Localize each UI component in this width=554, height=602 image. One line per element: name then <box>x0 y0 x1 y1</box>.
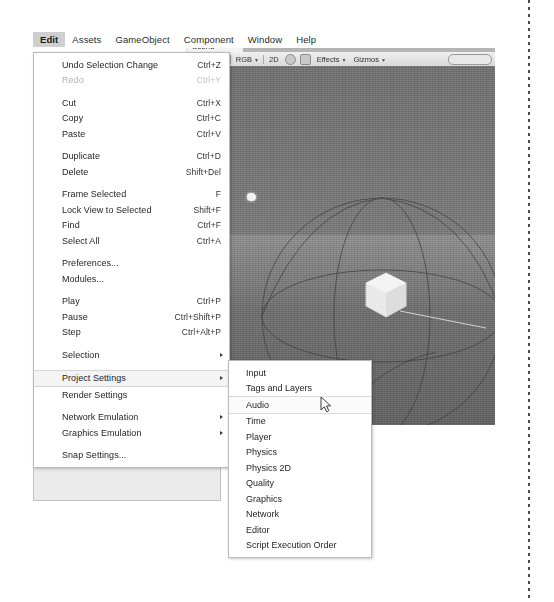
menu-bar[interactable]: Edit Assets GameObject Component Window … <box>33 31 528 48</box>
submenu-arrow-icon <box>220 376 223 380</box>
menu-item-find[interactable]: Find Ctrl+F <box>34 218 229 234</box>
menu-item-snap-settings[interactable]: Snap Settings... <box>34 448 229 464</box>
menu-item-modules[interactable]: Modules... <box>34 271 229 287</box>
menu-item-label: Render Settings <box>62 390 221 400</box>
menu-item-project-settings[interactable]: Project Settings <box>34 370 229 388</box>
menu-item-copy[interactable]: Copy Ctrl+C <box>34 111 229 127</box>
menu-item-graphics-emulation[interactable]: Graphics Emulation <box>34 425 229 441</box>
menu-item-pause[interactable]: Pause Ctrl+Shift+P <box>34 309 229 325</box>
menu-item-label: Selection <box>62 350 221 360</box>
menu-item-cut[interactable]: Cut Ctrl+X <box>34 95 229 111</box>
menu-item-label: Paste <box>62 129 187 139</box>
menu-item-label: Cut <box>62 98 187 108</box>
submenu-item-audio[interactable]: Audio <box>229 396 371 414</box>
submenu-arrow-icon <box>220 353 223 357</box>
menu-item-label: Step <box>62 327 172 337</box>
menu-item-label: Play <box>62 296 187 306</box>
submenu-item-input[interactable]: Input <box>229 365 371 381</box>
menu-separator <box>34 142 229 149</box>
menu-separator <box>34 403 229 410</box>
submenu-item-quality[interactable]: Quality <box>229 476 371 492</box>
menu-item-selection[interactable]: Selection <box>34 347 229 363</box>
menu-separator <box>34 287 229 294</box>
menu-item-shortcut: Ctrl+Y <box>187 75 221 85</box>
menu-item-label: Lock View to Selected <box>62 205 183 215</box>
menu-separator <box>34 88 229 95</box>
menubar-item-help[interactable]: Help <box>289 32 323 47</box>
edit-dropdown-menu[interactable]: Undo Selection Change Ctrl+Z Redo Ctrl+Y… <box>33 52 230 468</box>
submenu-item-physics-2d[interactable]: Physics 2D <box>229 460 371 476</box>
submenu-item-network[interactable]: Network <box>229 507 371 523</box>
menubar-item-assets[interactable]: Assets <box>65 32 108 47</box>
menu-item-shortcut: Ctrl+X <box>187 98 221 108</box>
menu-item-lock-view-to-selected[interactable]: Lock View to Selected Shift+F <box>34 202 229 218</box>
menu-item-shortcut: Shift+Del <box>176 167 221 177</box>
mouse-pointer-icon <box>320 396 333 413</box>
menu-item-paste[interactable]: Paste Ctrl+V <box>34 126 229 142</box>
menu-item-play[interactable]: Play Ctrl+P <box>34 294 229 310</box>
menu-separator <box>34 441 229 448</box>
menubar-item-gameobject[interactable]: GameObject <box>108 32 176 47</box>
menubar-item-component[interactable]: Component <box>177 32 241 47</box>
menu-item-shortcut: Shift+F <box>183 205 221 215</box>
menu-item-undo[interactable]: Undo Selection Change Ctrl+Z <box>34 57 229 73</box>
page-edge-dotted-rule <box>528 0 530 602</box>
submenu-item-tags-and-layers[interactable]: Tags and Layers <box>229 381 371 397</box>
submenu-item-player[interactable]: Player <box>229 429 371 445</box>
menu-item-label: Frame Selected <box>62 189 206 199</box>
menu-item-label: Find <box>62 220 187 230</box>
submenu-item-editor[interactable]: Editor <box>229 522 371 538</box>
menu-item-label: Project Settings <box>62 373 221 383</box>
menu-item-label: Modules... <box>62 274 211 284</box>
menu-item-label: Pause <box>62 312 165 322</box>
menu-item-shortcut: Ctrl+Shift+P <box>165 312 221 322</box>
menu-separator <box>34 249 229 256</box>
menu-item-label: Copy <box>62 113 186 123</box>
menu-item-shortcut: F <box>206 189 221 199</box>
menu-item-shortcut: Ctrl+F <box>187 220 221 230</box>
menu-separator <box>34 340 229 347</box>
menu-item-label: Snap Settings... <box>62 450 221 460</box>
submenu-item-graphics[interactable]: Graphics <box>229 491 371 507</box>
menu-item-shortcut: Ctrl+Alt+P <box>172 327 221 337</box>
menu-item-shortcut: Ctrl+V <box>187 129 221 139</box>
menubar-item-window[interactable]: Window <box>241 32 289 47</box>
menu-item-label: Preferences... <box>62 258 211 268</box>
submenu-item-script-execution-order[interactable]: Script Execution Order <box>229 538 371 554</box>
menu-item-label: Select All <box>62 236 187 246</box>
submenu-arrow-icon <box>220 431 223 435</box>
menu-item-shortcut: Ctrl+P <box>187 296 221 306</box>
menu-item-duplicate[interactable]: Duplicate Ctrl+D <box>34 149 229 165</box>
menu-item-delete[interactable]: Delete Shift+Del <box>34 164 229 180</box>
menu-item-shortcut: Ctrl+D <box>186 151 221 161</box>
menu-separator <box>34 363 229 370</box>
menu-item-label: Undo Selection Change <box>62 60 187 70</box>
menu-item-label: Delete <box>62 167 176 177</box>
submenu-item-physics[interactable]: Physics <box>229 445 371 461</box>
menu-item-render-settings[interactable]: Render Settings <box>34 387 229 403</box>
menu-item-label: Duplicate <box>62 151 186 161</box>
menu-item-shortcut: Ctrl+C <box>186 113 221 123</box>
submenu-item-time[interactable]: Time <box>229 414 371 430</box>
menu-item-preferences[interactable]: Preferences... <box>34 256 229 272</box>
menu-bar-items: Edit Assets GameObject Component Window … <box>33 31 528 48</box>
menu-item-frame-selected[interactable]: Frame Selected F <box>34 187 229 203</box>
menu-item-shortcut: Ctrl+A <box>187 236 221 246</box>
menu-item-label: Graphics Emulation <box>62 428 221 438</box>
menu-item-shortcut: Ctrl+Z <box>187 60 221 70</box>
menubar-item-edit[interactable]: Edit <box>33 32 65 47</box>
menu-item-label: Redo <box>62 75 187 85</box>
menu-item-label: Network Emulation <box>62 412 221 422</box>
project-settings-submenu[interactable]: Input Tags and Layers Audio Time Player … <box>228 360 372 558</box>
menu-item-step[interactable]: Step Ctrl+Alt+P <box>34 325 229 341</box>
menu-item-redo: Redo Ctrl+Y <box>34 73 229 89</box>
menu-item-network-emulation[interactable]: Network Emulation <box>34 410 229 426</box>
menu-item-select-all[interactable]: Select All Ctrl+A <box>34 233 229 249</box>
screenshot-root: Scene Textured ▾ RGB ▾ 2D Effects ▾ <box>0 0 554 602</box>
menu-separator <box>34 180 229 187</box>
submenu-arrow-icon <box>220 415 223 419</box>
